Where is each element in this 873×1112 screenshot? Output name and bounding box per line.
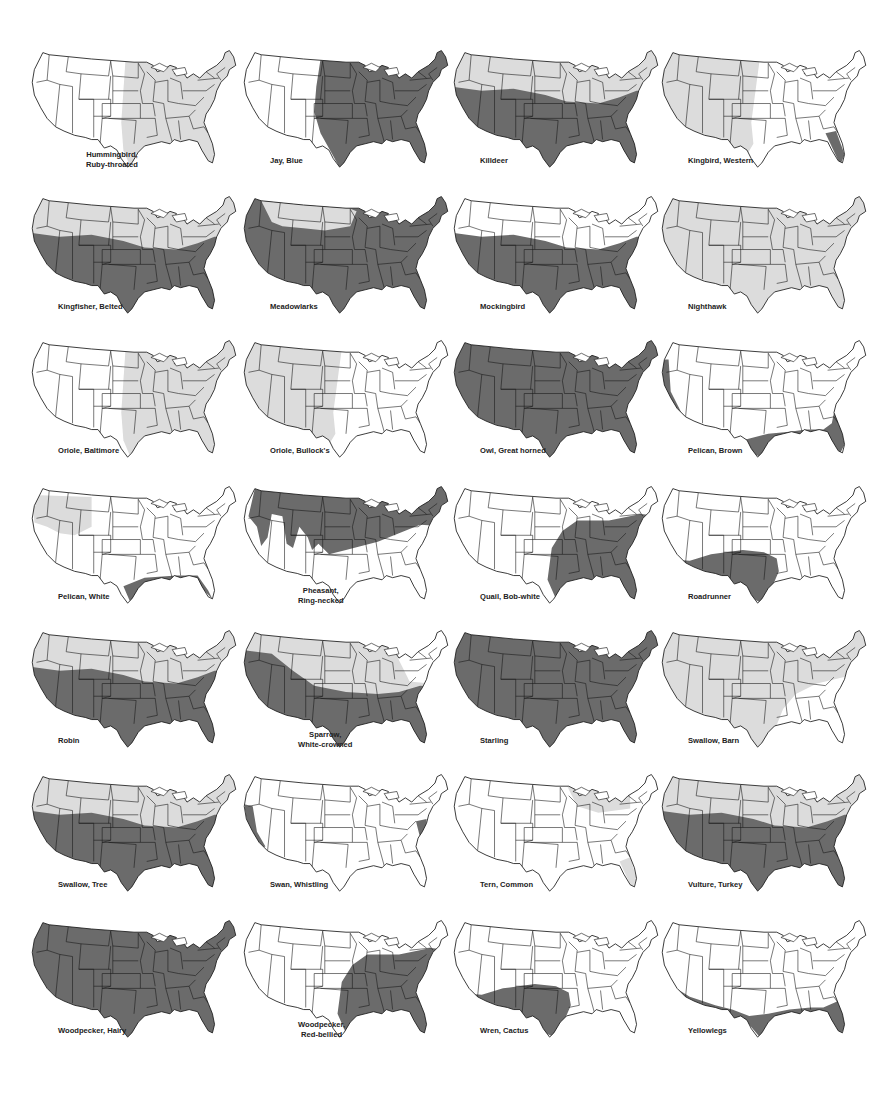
map-label: Pheasant,Ring-necked <box>298 586 344 605</box>
map-label-line1: Nighthawk <box>688 302 726 311</box>
map-label: Owl, Great horned <box>480 446 546 456</box>
map-label: Wren, Cactus <box>480 1026 528 1036</box>
map-label: Swallow, Tree <box>58 880 108 890</box>
map-label: Robin <box>58 736 80 746</box>
range-map-quail-bob-white: Quail, Bob-white <box>450 484 662 626</box>
range-map-meadowlarks: Meadowlarks <box>240 194 452 336</box>
map-label: Quail, Bob-white <box>480 592 540 602</box>
map-label-line1: Pelican, White <box>58 592 109 601</box>
range-map-woodpecker-red-bellied: Woodpecker,Red-bellied <box>240 918 452 1060</box>
range-map-robin: Robin <box>28 628 240 770</box>
map-label: Oriole, Bullock's <box>270 446 330 456</box>
map-label-line1: Vulture, Turkey <box>688 880 742 889</box>
map-label-line1: Robin <box>58 736 80 745</box>
range-map-yellowlegs: Yellowlegs <box>658 918 870 1060</box>
map-label: Swan, Whistling <box>270 880 328 890</box>
map-label-line1: Wren, Cactus <box>480 1026 528 1035</box>
map-label: Swallow, Barn <box>688 736 739 746</box>
map-label-line1: Swallow, Tree <box>58 880 108 889</box>
map-label-line1: Meadowlarks <box>270 302 318 311</box>
range-map-hummingbird-ruby-throated: Hummingbird,Ruby-throated <box>28 48 240 190</box>
map-label-line1: Quail, Bob-white <box>480 592 540 601</box>
map-label-line1: Pheasant, <box>303 586 339 595</box>
map-label: Hummingbird,Ruby-throated <box>86 150 138 169</box>
map-label-line2: Ruby-throated <box>86 160 138 169</box>
map-label: Meadowlarks <box>270 302 318 312</box>
range-map-grid: Hummingbird,Ruby-throated Jay, Blue Kill… <box>28 48 858 1078</box>
range-shade <box>620 857 637 889</box>
map-label-line1: Mockingbird <box>480 302 525 311</box>
map-label-line1: Woodpecker, Hairy <box>58 1026 126 1035</box>
range-map-swallow-barn: Swallow, Barn <box>658 628 870 770</box>
map-label-line1: Pelican, Brown <box>688 446 742 455</box>
map-label-line1: Killdeer <box>480 156 508 165</box>
range-map-nighthawk: Nighthawk <box>658 194 870 336</box>
range-map-vulture-turkey: Vulture, Turkey <box>658 772 870 914</box>
map-label: Pelican, White <box>58 592 109 602</box>
range-map-mockingbird: Mockingbird <box>450 194 662 336</box>
map-label: Yellowlegs <box>688 1026 727 1036</box>
map-label: Starling <box>480 736 508 746</box>
map-label-line1: Jay, Blue <box>270 156 303 165</box>
map-label: Nighthawk <box>688 302 726 312</box>
map-label-line1: Swallow, Barn <box>688 736 739 745</box>
map-label-line1: Owl, Great horned <box>480 446 546 455</box>
us-map-outline <box>240 918 452 1046</box>
map-label-line1: Yellowlegs <box>688 1026 727 1035</box>
map-label: Woodpecker,Red-bellied <box>298 1020 345 1039</box>
map-label: Sparrow,White-crowned <box>298 730 352 749</box>
map-label-line1: Oriole, Baltimore <box>58 446 119 455</box>
range-map-pelican-brown: Pelican, Brown <box>658 338 870 480</box>
map-label: Pelican, Brown <box>688 446 742 456</box>
range-map-oriole-bullock-s: Oriole, Bullock's <box>240 338 452 480</box>
map-label-line1: Roadrunner <box>688 592 731 601</box>
range-map-kingfisher-belted: Kingfisher, Belted <box>28 194 240 336</box>
us-map-outline <box>240 484 452 612</box>
range-map-kingbird-western: Kingbird, Western <box>658 48 870 190</box>
range-shade <box>825 131 844 165</box>
map-label-line1: Sparrow, <box>309 730 341 739</box>
range-map-woodpecker-hairy: Woodpecker, Hairy <box>28 918 240 1060</box>
map-label: Roadrunner <box>688 592 731 602</box>
map-label-line2: Ring-necked <box>298 596 344 605</box>
range-map-pheasant-ring-necked: Pheasant,Ring-necked <box>240 484 452 626</box>
map-label: Mockingbird <box>480 302 525 312</box>
map-label-line1: Kingfisher, Belted <box>58 302 123 311</box>
map-label-line1: Swan, Whistling <box>270 880 328 889</box>
map-label-line1: Oriole, Bullock's <box>270 446 330 455</box>
map-label-line1: Woodpecker, <box>298 1020 345 1029</box>
map-label-line1: Hummingbird, <box>86 150 137 159</box>
map-label-line1: Kingbird, Western <box>688 156 753 165</box>
map-label: Oriole, Baltimore <box>58 446 119 456</box>
map-label: Jay, Blue <box>270 156 303 166</box>
range-shade <box>121 48 240 175</box>
map-label-line2: Red-bellied <box>301 1030 342 1039</box>
range-map-oriole-baltimore: Oriole, Baltimore <box>28 338 240 480</box>
range-map-killdeer: Killdeer <box>450 48 662 190</box>
range-shade <box>121 338 240 465</box>
map-label: Kingfisher, Belted <box>58 302 123 312</box>
range-map-starling: Starling <box>450 628 662 770</box>
range-map-sparrow-white-crowned: Sparrow,White-crowned <box>240 628 452 770</box>
range-map-owl-great-horned: Owl, Great horned <box>450 338 662 480</box>
map-label-line1: Tern, Common <box>480 880 533 889</box>
range-map-swan-whistling: Swan, Whistling <box>240 772 452 914</box>
map-label-line1: Starling <box>480 736 508 745</box>
map-label: Tern, Common <box>480 880 533 890</box>
range-map-roadrunner: Roadrunner <box>658 484 870 626</box>
map-label: Vulture, Turkey <box>688 880 742 890</box>
range-map-pelican-white: Pelican, White <box>28 484 240 626</box>
range-map-wren-cactus: Wren, Cactus <box>450 918 662 1060</box>
range-map-jay-blue: Jay, Blue <box>240 48 452 190</box>
map-label: Woodpecker, Hairy <box>58 1026 126 1036</box>
range-map-swallow-tree: Swallow, Tree <box>28 772 240 914</box>
range-map-tern-common: Tern, Common <box>450 772 662 914</box>
range-shade <box>314 48 452 175</box>
map-label: Kingbird, Western <box>688 156 753 166</box>
map-label: Killdeer <box>480 156 508 166</box>
map-label-line2: White-crowned <box>298 740 352 749</box>
